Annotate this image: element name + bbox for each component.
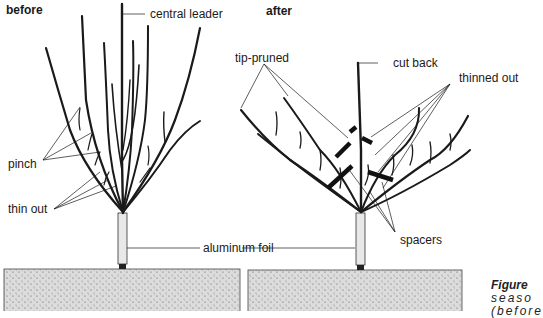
panel-heading-before: before (6, 4, 43, 16)
panel-heading-after: after (266, 5, 292, 17)
label-pinch: pinch (8, 158, 37, 170)
label-cut-back: cut back (393, 57, 438, 69)
before-tree (46, 4, 200, 269)
after-callouts (241, 63, 450, 248)
label-spacers: spacers (400, 234, 442, 246)
label-thin-out: thin out (8, 203, 47, 215)
caption-line-3: (before (491, 305, 543, 317)
label-central-leader: central leader (150, 8, 223, 20)
aluminum-foil-wrap-before (118, 213, 127, 264)
soil-after (248, 270, 462, 311)
aluminum-foil-wrap-after (356, 213, 365, 265)
soil-before (4, 269, 240, 311)
label-aluminum-foil: aluminum foil (203, 242, 274, 254)
label-tip-pruned: tip-pruned (235, 52, 289, 64)
caption-figure: Figure (491, 279, 528, 291)
label-thinned-out: thinned out (459, 72, 518, 84)
caption-line-2: seaso (491, 292, 533, 304)
